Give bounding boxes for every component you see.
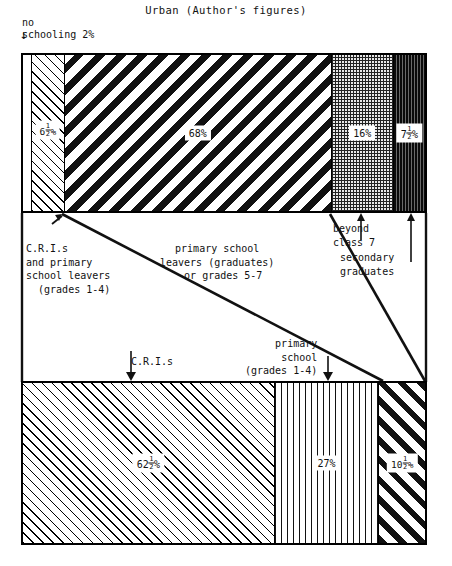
label-cris-and-primary-leavers: C.R.I.s and primary school leavers (grad… [26,242,110,296]
segment-value-68: 68% [185,126,211,141]
label-cris: C.R.I.s [131,355,173,369]
segment-value-62-5: 6212% [133,454,164,473]
segment-lower-remainder[interactable]: 1012% [378,383,425,543]
lower-stacked-bar: 6212% 27% 1012% [21,381,427,545]
segment-cris[interactable]: 6212% [23,383,274,543]
label-primary-school-leavers: primary school leavers (graduates) or gr… [160,242,274,283]
segment-value-6-5: 612% [35,120,60,139]
upper-stacked-bar: 612% 68% 16% 712% [21,53,427,213]
segment-primary-school[interactable]: 27% [274,383,379,543]
segment-primary-leavers-graduates[interactable]: 68% [64,55,331,211]
label-beyond-class-7: beyond class 7 [333,222,375,249]
segment-no-schooling[interactable] [23,55,31,211]
label-secondary-graduates: secondary graduates [340,251,394,278]
segment-value-16: 16% [349,126,375,141]
segment-value-10-5: 1012% [387,454,417,473]
segment-cris-and-primary-leavers[interactable]: 612% [31,55,64,211]
segment-value-27: 27% [314,456,340,471]
no-schooling-callout: no schooling 2% [22,17,94,41]
chart-title: Urban (Author's figures) [0,4,452,16]
label-primary-school-grades-1-4: primary school (grades 1-4) [245,337,317,378]
segment-secondary-graduates[interactable]: 712% [393,55,425,211]
segment-value-7-5: 712% [397,124,422,143]
segment-beyond-class-7[interactable]: 16% [331,55,393,211]
